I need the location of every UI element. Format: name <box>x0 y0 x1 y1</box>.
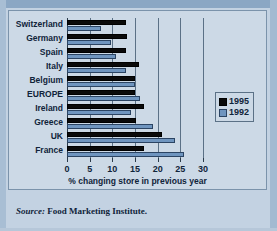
category-label: EUROPE <box>27 89 63 100</box>
source-text: Food Marketing Institute. <box>47 206 147 216</box>
category-label: Spain <box>40 47 63 58</box>
x-tick <box>180 158 181 162</box>
x-tick <box>158 158 159 162</box>
x-tick-label: 5 <box>87 164 92 174</box>
bar-row: France <box>67 144 203 158</box>
bar-1995-france <box>67 146 144 151</box>
x-tick-label: 15 <box>130 164 140 174</box>
x-tick <box>135 158 136 162</box>
bar-1995-germany <box>67 34 127 39</box>
x-tick-label: 20 <box>153 164 163 174</box>
left-band <box>0 0 6 231</box>
bar-1992-greece <box>67 124 153 129</box>
bar-1995-switzerland <box>67 20 126 25</box>
category-label: Belgium <box>29 75 63 86</box>
x-tick-label: 30 <box>198 164 208 174</box>
bar-1995-ireland <box>67 104 144 109</box>
bar-1992-france <box>67 152 184 157</box>
x-tick-label: 25 <box>175 164 185 174</box>
bar-chart: SwitzerlandGermanySpainItalyBelgiumEUROP… <box>8 10 267 190</box>
bar-1992-belgium <box>67 82 135 87</box>
bar-1992-ireland <box>67 110 131 115</box>
bar-row: Italy <box>67 60 203 74</box>
x-tick <box>67 158 68 162</box>
bar-1995-belgium <box>67 76 135 81</box>
category-label: Italy <box>46 61 63 72</box>
bar-row: Switzerland <box>67 18 203 32</box>
bar-row: Greece <box>67 116 203 130</box>
legend-item-1992: 1992 <box>219 107 249 118</box>
bar-row: Spain <box>67 46 203 60</box>
bar-1995-uk <box>67 132 162 137</box>
bar-1995-italy <box>67 62 139 67</box>
bar-rows: SwitzerlandGermanySpainItalyBelgiumEUROP… <box>67 18 203 158</box>
bar-1992-uk <box>67 138 175 143</box>
category-label: Germany <box>26 33 63 44</box>
chart-legend: 1995 1992 <box>215 92 254 122</box>
category-label: Ireland <box>35 103 63 114</box>
x-tick-label: 10 <box>107 164 117 174</box>
bar-1992-spain <box>67 54 116 59</box>
bar-1995-greece <box>67 118 136 123</box>
bar-row: UK <box>67 130 203 144</box>
category-label: UK <box>51 131 63 142</box>
source-note: Source: Food Marketing Institute. <box>16 206 147 216</box>
bar-1995-spain <box>67 48 126 53</box>
legend-swatch-icon-1995 <box>219 98 227 106</box>
legend-label-1995: 1995 <box>229 96 249 107</box>
figure-root: SwitzerlandGermanySpainItalyBelgiumEUROP… <box>0 0 277 231</box>
bar-1992-switzerland <box>67 26 101 31</box>
bar-1992-europe <box>67 96 140 101</box>
x-tick <box>90 158 91 162</box>
category-label: France <box>35 145 63 156</box>
bottom-band <box>0 228 277 231</box>
bar-row: Belgium <box>67 74 203 88</box>
right-band <box>270 0 277 231</box>
category-label: Greece <box>34 117 63 128</box>
legend-swatch-icon-1992 <box>219 109 227 117</box>
x-tick-label: 0 <box>64 164 69 174</box>
bar-1995-europe <box>67 90 135 95</box>
legend-label-1992: 1992 <box>229 107 249 118</box>
bar-row: Ireland <box>67 102 203 116</box>
bar-1992-italy <box>67 68 126 73</box>
legend-item-1995: 1995 <box>219 96 249 107</box>
x-tick <box>112 158 113 162</box>
top-band <box>0 0 277 8</box>
bar-1992-germany <box>67 40 111 45</box>
source-prefix: Source: <box>16 206 45 216</box>
category-label: Switzerland <box>16 19 63 30</box>
axis-area: SwitzerlandGermanySpainItalyBelgiumEUROP… <box>67 18 203 158</box>
gridline <box>203 18 204 158</box>
x-tick <box>203 158 204 162</box>
x-axis-title: % changing store in previous year <box>8 176 267 186</box>
bar-row: Germany <box>67 32 203 46</box>
bar-row: EUROPE <box>67 88 203 102</box>
